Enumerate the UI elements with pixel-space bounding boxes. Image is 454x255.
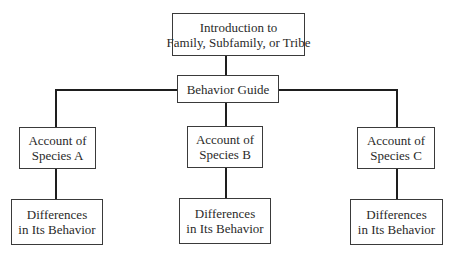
species-b-diff-line1: Differences <box>195 206 255 221</box>
species-b-differences-box: Differences in Its Behavior <box>179 198 271 244</box>
connector-right-down-to-species-c <box>396 89 398 128</box>
connector-species-c-to-diff <box>396 168 398 200</box>
species-a-account-box: Account of Species A <box>19 127 96 169</box>
species-b-account-box: Account of Species B <box>187 126 263 168</box>
species-c-account-line1: Account of <box>367 133 425 148</box>
connector-guide-to-species-b <box>225 102 227 127</box>
behavior-guide-box: Behavior Guide <box>177 75 279 103</box>
species-a-account-line1: Account of <box>28 133 86 148</box>
species-c-account-box: Account of Species C <box>357 127 435 169</box>
species-c-differences-box: Differences in Its Behavior <box>350 199 443 245</box>
species-c-account-line2: Species C <box>370 148 422 163</box>
connector-horizontal-left <box>55 89 178 91</box>
species-c-diff-line2: in Its Behavior <box>358 222 435 237</box>
connector-species-a-to-diff <box>55 168 57 200</box>
flowchart-diagram: Introduction to Family, Subfamily, or Tr… <box>0 0 454 255</box>
species-b-account-line1: Account of <box>196 132 254 147</box>
behavior-guide-label: Behavior Guide <box>187 82 270 97</box>
species-a-differences-box: Differences in Its Behavior <box>11 199 103 245</box>
species-a-account-line2: Species A <box>32 148 84 163</box>
species-c-diff-line1: Differences <box>366 207 426 222</box>
connector-left-down-to-species-a <box>55 89 57 128</box>
connector-species-b-to-diff <box>225 167 227 199</box>
intro-box: Introduction to Family, Subfamily, or Tr… <box>172 13 305 56</box>
species-a-diff-line2: in Its Behavior <box>18 222 95 237</box>
species-b-account-line2: Species B <box>199 147 251 162</box>
intro-box-line2: Family, Subfamily, or Tribe <box>167 35 311 50</box>
species-b-diff-line2: in Its Behavior <box>186 221 263 236</box>
connector-intro-to-guide <box>225 55 227 76</box>
intro-box-line1: Introduction to <box>200 20 278 35</box>
species-a-diff-line1: Differences <box>27 207 87 222</box>
connector-horizontal-right <box>277 89 398 91</box>
